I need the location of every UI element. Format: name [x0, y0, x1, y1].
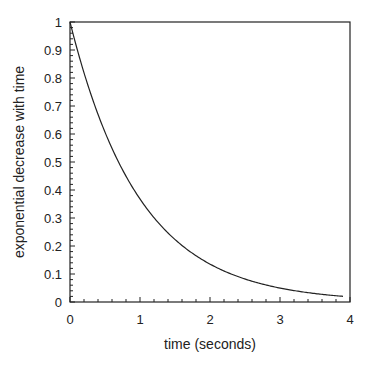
tick-label: 0.9 [44, 43, 62, 58]
tick-label: 0.6 [44, 127, 62, 142]
x-axis-label: time (seconds) [164, 336, 256, 352]
tick-label: 1 [136, 312, 143, 327]
tick-label: 3 [276, 312, 283, 327]
tick-label: 0.3 [44, 211, 62, 226]
tick-label: 0.2 [44, 239, 62, 254]
tick-label: 0.8 [44, 71, 62, 86]
data-line [70, 22, 343, 296]
chart: 00.10.20.30.40.50.60.70.80.91 01234 time… [0, 0, 369, 370]
tick-label: 0.5 [44, 155, 62, 170]
tick-label: 0 [66, 312, 73, 327]
tick-label: 0 [55, 295, 62, 310]
tick-label: 2 [206, 312, 213, 327]
y-axis-label: exponential decrease with time [11, 66, 27, 258]
tick-label: 0.1 [44, 267, 62, 282]
tick-label: 0.7 [44, 99, 62, 114]
plot-frame [70, 22, 350, 302]
tick-label: 1 [55, 15, 62, 30]
tick-label: 4 [346, 312, 353, 327]
tick-label: 0.4 [44, 183, 62, 198]
